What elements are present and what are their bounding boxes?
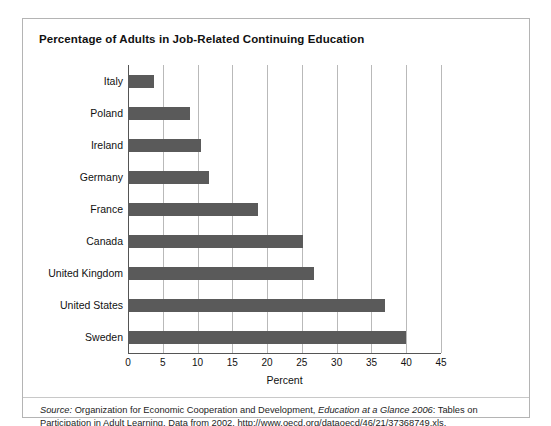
y-tick-label-poland: Poland (23, 107, 123, 119)
source-text-part-1: Organization for Economic Cooperation an… (72, 405, 318, 415)
source-label: Source: (40, 405, 72, 415)
bar-row (128, 202, 441, 216)
y-tick-label-italy: Italy (23, 75, 123, 87)
x-tick-label-10: 10 (192, 357, 203, 368)
bar-row (128, 170, 441, 184)
x-tick-label-30: 30 (331, 357, 342, 368)
y-tick-label-sweden: Sweden (23, 331, 123, 343)
bar-row (128, 138, 441, 152)
x-tick-label-45: 45 (435, 357, 446, 368)
plot-area (128, 65, 441, 353)
bar-row (128, 266, 441, 280)
bar-row (128, 330, 441, 344)
source-divider (23, 397, 529, 398)
y-axis-category-labels: ItalyPolandIrelandGermanyFranceCanadaUni… (23, 65, 123, 353)
bar-italy (128, 75, 154, 88)
bar-ireland (128, 139, 201, 152)
bar-row (128, 298, 441, 312)
bar-united-states (128, 299, 385, 312)
x-tick-label-25: 25 (296, 357, 307, 368)
x-tick-label-40: 40 (401, 357, 412, 368)
y-tick-label-germany: Germany (23, 171, 123, 183)
x-tick-label-20: 20 (262, 357, 273, 368)
bar-row (128, 106, 441, 120)
source-note: Source: Organization for Economic Cooper… (40, 404, 513, 426)
y-tick-label-united-kingdom: United Kingdom (23, 267, 123, 279)
x-axis-tick-labels: 051015202530354045 (128, 357, 441, 373)
x-tick-label-5: 5 (160, 357, 166, 368)
bar-canada (128, 235, 303, 248)
bar-row (128, 234, 441, 248)
bar-poland (128, 107, 190, 120)
y-tick-label-united-states: United States (23, 299, 123, 311)
source-work-title: Education at a Glance 2006 (318, 405, 433, 415)
bar-series (128, 65, 441, 353)
x-tick-label-15: 15 (227, 357, 238, 368)
y-tick-label-canada: Canada (23, 235, 123, 247)
bar-sweden (128, 331, 406, 344)
y-tick-label-france: France (23, 203, 123, 215)
x-tick-label-0: 0 (125, 357, 131, 368)
bar-france (128, 203, 258, 216)
chart-title: Percentage of Adults in Job-Related Cont… (39, 33, 364, 45)
bar-united-kingdom (128, 267, 314, 280)
x-axis-title: Percent (128, 374, 441, 386)
bar-row (128, 74, 441, 88)
bar-germany (128, 171, 209, 184)
x-axis-line (128, 353, 441, 354)
gridline-45 (441, 65, 442, 353)
x-tick-label-35: 35 (366, 357, 377, 368)
chart-figure: Percentage of Adults in Job-Related Cont… (22, 18, 530, 418)
y-tick-label-ireland: Ireland (23, 139, 123, 151)
